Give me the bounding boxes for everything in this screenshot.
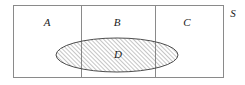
- venn-diagram-figure: A B C D S: [0, 0, 245, 85]
- region-label-d: D: [114, 49, 122, 60]
- region-label-c: C: [183, 17, 190, 28]
- venn-diagram-canvas: [0, 0, 245, 85]
- region-label-a: A: [44, 17, 51, 28]
- universe-label-s: S: [230, 8, 236, 19]
- region-label-b: B: [114, 17, 121, 28]
